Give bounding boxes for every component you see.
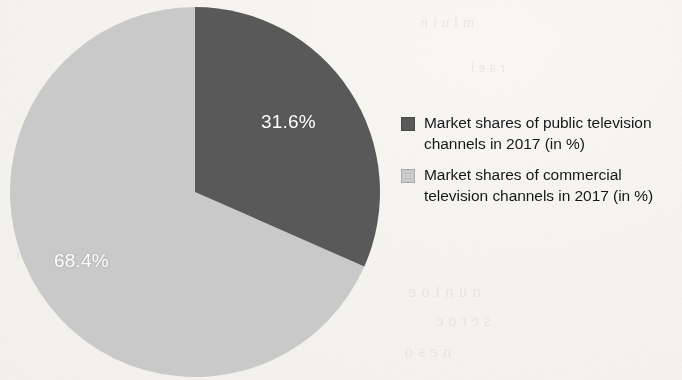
legend-label-public: Market shares of public television chann… xyxy=(424,113,677,154)
legend-swatch-dark-square-icon xyxy=(401,117,415,131)
pie-slice-label-commercial: 68.4% xyxy=(54,250,109,272)
legend-label-commercial: Market shares of commercial television c… xyxy=(424,165,677,206)
chart-legend: Market shares of public television chann… xyxy=(401,113,677,217)
legend-item-commercial[interactable]: Market shares of commercial television c… xyxy=(401,165,677,206)
legend-item-public[interactable]: Market shares of public television chann… xyxy=(401,113,677,154)
legend-swatch-light-square-icon xyxy=(401,169,415,183)
pie-chart-figure: 31.6% 68.4% Market shares of public tele… xyxy=(0,0,682,380)
pie-slice-label-public: 31.6% xyxy=(261,111,316,133)
